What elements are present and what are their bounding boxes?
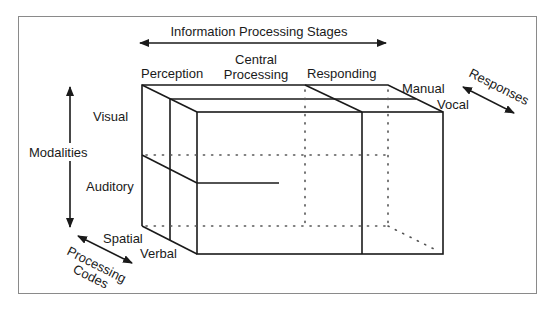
modality-visual-label: Visual — [93, 109, 128, 124]
stage-responding-label: Responding — [307, 66, 376, 81]
cube-hidden-edges — [146, 90, 436, 250]
stage-central-label: Central — [235, 52, 277, 67]
response-manual-label: Manual — [402, 81, 445, 96]
cube-solid-edges — [142, 85, 443, 254]
stage-perception-label: Perception — [141, 66, 203, 81]
modality-auditory-label: Auditory — [86, 179, 134, 194]
responses-title: Responses — [467, 65, 532, 108]
stages-title: Information Processing Stages — [170, 24, 348, 39]
code-spatial-label: Spatial — [103, 231, 143, 246]
stage-processing-label: Processing — [224, 67, 288, 82]
multiple-resource-cube-diagram: Information Processing Stages Perception… — [0, 0, 554, 310]
response-vocal-label: Vocal — [437, 97, 469, 112]
code-verbal-label: Verbal — [140, 246, 177, 261]
modalities-title: Modalities — [29, 145, 88, 160]
